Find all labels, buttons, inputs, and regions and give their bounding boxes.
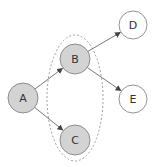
node-label: A — [19, 92, 27, 105]
node-e: E — [119, 85, 147, 113]
edge-b-to-d — [88, 33, 120, 52]
node-label: D — [129, 19, 137, 32]
node-label: B — [71, 53, 79, 66]
node-a: A — [8, 83, 38, 113]
edge-a-to-b — [35, 69, 62, 89]
node-b: B — [60, 44, 90, 74]
edge-a-to-c — [35, 107, 63, 129]
node-c: C — [60, 125, 90, 155]
graph-diagram: ABCDE — [0, 0, 158, 167]
edge-b-to-e — [87, 68, 120, 91]
node-d: D — [119, 11, 147, 39]
node-label: E — [130, 93, 137, 106]
diagram-svg: ABCDE — [0, 0, 158, 167]
node-label: C — [71, 134, 79, 147]
